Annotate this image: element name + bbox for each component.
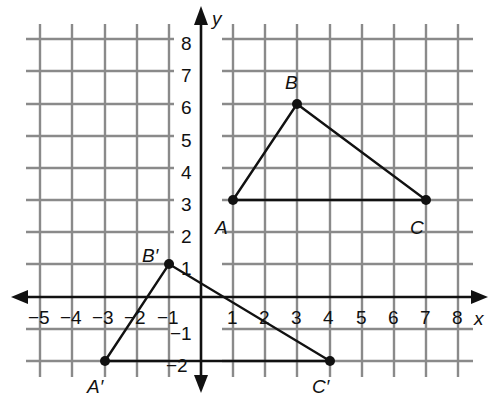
y-tick: 5: [181, 130, 192, 151]
label-c: C: [410, 217, 424, 238]
y-axis-down-arrow-icon: [194, 375, 208, 393]
x-tick: −3: [92, 307, 114, 328]
y-tick: 4: [181, 162, 192, 183]
x-axis-right-arrow-icon: [471, 290, 488, 304]
triangle-abc: A B C: [214, 72, 431, 238]
x-tick: 6: [388, 307, 399, 328]
y-tick: 7: [181, 65, 192, 86]
label-c-prime: C′: [312, 376, 331, 397]
x-tick: 5: [356, 307, 367, 328]
y-tick: −2: [166, 355, 188, 376]
x-axis-left-arrow-icon: [11, 290, 28, 304]
x-tick: 3: [291, 307, 302, 328]
y-axis-label: y: [210, 8, 223, 29]
x-tick: 1: [227, 307, 238, 328]
point-c-prime: [325, 356, 335, 366]
label-a: A: [214, 217, 228, 238]
x-tick: 7: [420, 307, 431, 328]
x-tick: −5: [28, 307, 50, 328]
point-c: [421, 195, 431, 205]
x-tick: 4: [323, 307, 334, 328]
y-tick: 2: [181, 226, 192, 247]
y-tick: −1: [170, 323, 192, 344]
y-axis-up-arrow-icon: [194, 6, 208, 25]
x-axis-label: x: [473, 308, 485, 329]
x-tick: −4: [60, 307, 82, 328]
y-tick: 6: [181, 97, 192, 118]
point-a: [228, 195, 238, 205]
point-b: [292, 99, 302, 109]
label-b-prime: B′: [142, 245, 160, 266]
y-tick: 8: [181, 33, 192, 54]
y-tick: 3: [181, 194, 192, 215]
coordinate-plane-diagram: x y −5 −4 −3 −2 −1 1 2 3 4 5 6 7 8 8 7 6…: [0, 0, 494, 401]
point-b-prime: [164, 259, 174, 269]
label-a-prime: A′: [86, 376, 105, 397]
label-b: B: [285, 72, 298, 93]
x-tick: 8: [452, 307, 463, 328]
coordinate-plane: x y −5 −4 −3 −2 −1 1 2 3 4 5 6 7 8 8 7 6…: [0, 0, 494, 401]
point-a-prime: [100, 356, 110, 366]
